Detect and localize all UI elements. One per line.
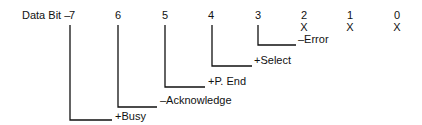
signal-paper-end-label: +P. End (208, 75, 246, 87)
signal-busy-label: +Busy (115, 110, 146, 122)
signal-acknowledge-label: –Acknowledge (160, 94, 232, 106)
bit-3: 3 (255, 9, 261, 21)
bit4-connector (212, 25, 252, 66)
bit3-connector (258, 25, 296, 45)
bit-2-unused-mark: X (300, 21, 307, 33)
bit-1: 1 (347, 9, 353, 21)
bit-1-unused-mark: X (346, 21, 353, 33)
bit6-connector (118, 25, 157, 107)
bit5-connector (165, 25, 205, 87)
bit-0: 0 (394, 9, 400, 21)
bit-6: 6 (115, 9, 121, 21)
bit-5: 5 (162, 9, 168, 21)
row-label: Data Bit – (22, 9, 70, 21)
signal-error-label: –Error (298, 33, 329, 45)
bit-0-unused-mark: X (393, 21, 400, 33)
bit-7: 7 (69, 9, 75, 21)
bit-4: 4 (208, 9, 214, 21)
bit7-connector (70, 25, 112, 120)
signal-select-label: +Select (254, 54, 291, 66)
bit-2: 2 (301, 9, 307, 21)
